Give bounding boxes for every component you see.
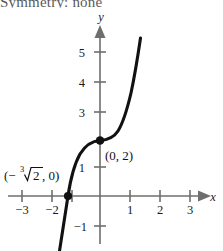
coordinate-plane: x y −3 −2 1 2 3 5 4 3 1 −1 (0, 2) (− 3 2…: [0, 0, 223, 251]
annotation-x-intercept-open: (−: [4, 168, 16, 183]
y-axis-label: y: [96, 10, 104, 24]
x-axis-label: x: [209, 190, 216, 204]
x-tick-label--2: −2: [45, 203, 58, 217]
y-tick-label-4: 4: [79, 76, 86, 90]
y-tick-label-1: 1: [79, 161, 85, 175]
annotation-x-intercept-tail: , 0): [42, 168, 59, 183]
graph-figure: Symmetry: none x y −3 −2 1 2 3: [0, 0, 223, 251]
point-y-intercept: [96, 136, 105, 145]
y-tick-label--1: −1: [74, 220, 87, 234]
x-tick-label-1: 1: [127, 203, 133, 217]
x-tick-label-2: 2: [157, 203, 163, 217]
y-axis-arrow-icon: [95, 25, 106, 38]
annotation-x-intercept-index: 3: [20, 164, 24, 174]
annotation-x-intercept: (− 3 2 , 0): [4, 164, 59, 183]
x-tick-label--3: −3: [15, 203, 28, 217]
x-tick-label-3: 3: [187, 203, 193, 217]
y-tick-label-5: 5: [79, 46, 85, 60]
point-x-intercept: [64, 192, 72, 200]
y-tick-label-3: 3: [79, 106, 85, 120]
annotation-y-intercept: (0, 2): [105, 148, 133, 163]
x-axis-arrow-icon: [198, 191, 211, 202]
annotation-x-intercept-radicand: 2: [33, 168, 40, 183]
